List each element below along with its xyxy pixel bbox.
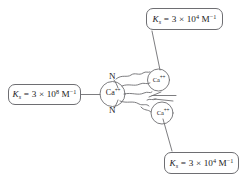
nitrogen-bottom-label: N: [109, 106, 116, 115]
callout-high-affinity-text: Ks = 3 × 108 M−1: [13, 89, 77, 100]
times-sign: ×: [179, 14, 184, 24]
k-subscript: s: [19, 93, 21, 100]
callout-bottom-right-text: Ks = 3 × 104 M−1: [170, 158, 234, 169]
center-calcium-element: Ca: [106, 88, 115, 97]
unit-exponent: −1: [70, 88, 77, 95]
unit-exponent: −1: [210, 13, 217, 20]
unit-exponent: −1: [227, 157, 234, 164]
coefficient: 3: [32, 89, 37, 99]
equals-sign: =: [181, 158, 187, 168]
coefficient: 3: [189, 158, 194, 168]
center-calcium-charge: ++: [115, 87, 120, 93]
equals-sign: =: [164, 14, 170, 24]
exponent: 8: [56, 88, 59, 95]
stroke-mark-lower: [154, 99, 173, 101]
callout-top-right-text: Ks = 3 × 104 M−1: [153, 14, 217, 25]
unit: M: [219, 158, 227, 168]
callout-high-affinity[interactable]: Ks = 3 × 108 M−1: [8, 84, 81, 105]
upper-calcium-element: Ca: [153, 76, 160, 83]
base: 10: [204, 158, 213, 168]
unit: M: [62, 89, 70, 99]
nitrogen-top-label: N: [109, 72, 116, 81]
lower-calcium-charge: ++: [164, 107, 169, 113]
linker-lower-inner: [141, 107, 151, 112]
exponent: 4: [213, 157, 216, 164]
center-calcium-label: Ca++: [100, 88, 126, 97]
unit: M: [202, 14, 210, 24]
upper-calcium-label: Ca++: [148, 75, 170, 83]
equals-sign: =: [24, 89, 30, 99]
callout-bottom-right[interactable]: Ks = 3 × 104 M−1: [164, 152, 239, 174]
linker-lower-chain: [120, 101, 149, 106]
callout-top-right[interactable]: Ks = 3 × 104 M−1: [146, 8, 223, 30]
linker-upper-chain: [116, 72, 150, 79]
exponent: 4: [196, 13, 199, 20]
base: 10: [187, 14, 196, 24]
times-sign: ×: [196, 158, 201, 168]
lower-calcium-element: Ca: [157, 109, 164, 116]
base: 10: [47, 89, 56, 99]
upper-calcium-charge: ++: [160, 74, 165, 80]
calcium-binding-figure: Ks = 3 × 108 M−1 Ks = 3 × 104 M−1 Ks = 3…: [0, 0, 242, 182]
lower-calcium-label: Ca++: [152, 108, 174, 116]
times-sign: ×: [39, 89, 44, 99]
linker-upper-inner: [122, 83, 150, 86]
coefficient: 3: [172, 14, 177, 24]
connector-top-right: [152, 31, 160, 70]
k-subscript: s: [176, 161, 178, 168]
k-subscript: s: [159, 17, 161, 24]
linker-middle-chain: [124, 92, 152, 94]
